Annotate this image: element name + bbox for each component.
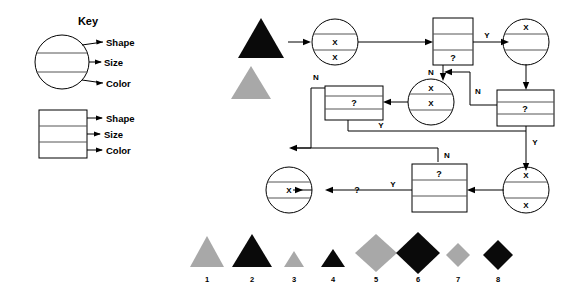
key-rect-leaders: [87, 116, 103, 153]
edge-label-y-right-down: Y: [532, 138, 538, 147]
flow-node-rect-1-cell-bot: ?: [450, 53, 456, 63]
legend-item-8[interactable]: 8: [483, 240, 513, 284]
flow-node-rect-4-cell-top: ?: [436, 169, 442, 179]
key-rect-label-size: Size: [104, 129, 123, 140]
flow-node-circle-5-cell-top: X: [523, 171, 529, 180]
legend-item-1[interactable]: 1: [190, 236, 224, 284]
legend-item-1-number: 1: [205, 275, 209, 284]
flow-node-circle-2-cell-top: X: [523, 23, 529, 32]
flow-node-circle-5-cell-bot: X: [523, 201, 529, 210]
key-title: Key: [78, 15, 99, 27]
edge-label-y-from-rect3: Y: [378, 121, 384, 130]
legend-item-6[interactable]: 6: [396, 232, 440, 284]
edge-label-y-to-output: Y: [390, 180, 396, 189]
legend-item-5-number: 5: [374, 275, 378, 284]
edge-label-n-to-rect4: N: [444, 151, 450, 160]
key-rect-label-shape: Shape: [106, 113, 135, 124]
flow-node-circle-4-cell-mid: X: [286, 186, 292, 195]
edge-label-top-y: Y: [484, 31, 490, 40]
flow-node-circle-3-cell-mid: X: [428, 99, 434, 108]
flow-node-rect-4[interactable]: ?: [412, 164, 467, 212]
key-circle-glyph: [35, 35, 89, 89]
legend-item-3-number: 3: [292, 275, 296, 284]
legend-item-3[interactable]: 3: [284, 251, 304, 284]
key-circle-leaders: [82, 40, 103, 86]
key-rect-glyph: [39, 110, 87, 158]
legend-item-4[interactable]: 4: [321, 249, 345, 284]
legend-item-7-number: 7: [456, 275, 460, 284]
key-circle-label-size: Size: [104, 57, 123, 68]
edge-label-n-below-rect1: N: [428, 68, 434, 77]
edge-label-n-to-rect3: N: [313, 73, 319, 82]
key-rect-label-color: Color: [106, 145, 131, 156]
flow-node-triangle-gray[interactable]: [231, 66, 271, 99]
edge-label-n-right-mid: N: [475, 87, 481, 96]
key-circle-label-shape: Shape: [106, 37, 135, 48]
flow-node-circle-1[interactable]: X X: [312, 19, 358, 65]
legend-item-5[interactable]: 5: [355, 234, 397, 284]
flow-node-rect-2-cell-mid: ?: [522, 104, 528, 114]
flow-node-circle-3[interactable]: X X: [408, 79, 454, 125]
legend-item-2[interactable]: 2: [232, 234, 272, 284]
key-circle-label-color: Color: [106, 78, 131, 89]
flowchart-output-marker: ?: [354, 185, 360, 195]
legend-item-4-number: 4: [331, 275, 336, 284]
flow-node-circle-1-cell-mid: X: [332, 38, 338, 47]
flow-node-triangle-black[interactable]: [238, 18, 284, 58]
legend-row: 1 2 3 4 5 6 7: [190, 232, 513, 284]
legend-item-6-number: 6: [416, 275, 420, 284]
legend-item-8-number: 8: [496, 275, 500, 284]
flow-node-circle-1-cell-bot: X: [332, 53, 338, 62]
flow-node-rect-1[interactable]: ?: [433, 18, 473, 65]
key-panel: Key Shape Size Color: [35, 15, 135, 158]
diagram-canvas: Key Shape Size Color: [0, 0, 563, 300]
flow-node-rect-3-cell-mid: ?: [351, 98, 357, 108]
flow-node-rect-3[interactable]: ?: [325, 86, 383, 120]
flow-node-rect-2[interactable]: ?: [497, 90, 554, 126]
flow-node-circle-3-cell-top: X: [428, 84, 434, 93]
legend-item-7[interactable]: 7: [446, 243, 470, 284]
flow-node-circle-2[interactable]: X: [503, 19, 549, 65]
legend-item-2-number: 2: [250, 275, 254, 284]
flow-node-circle-5[interactable]: X X: [503, 167, 549, 213]
flowchart-edge-labels: Y N N N Y Y N Y ?: [313, 31, 538, 195]
